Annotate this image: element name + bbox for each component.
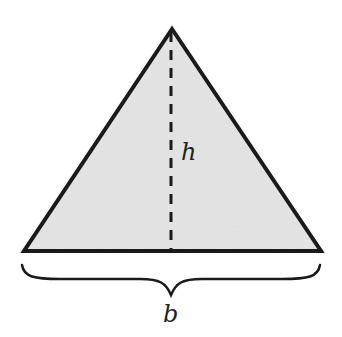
triangle-diagram: h b (0, 0, 342, 337)
base-brace (22, 265, 320, 295)
base-label: b (163, 300, 178, 328)
height-label: h (181, 138, 196, 166)
